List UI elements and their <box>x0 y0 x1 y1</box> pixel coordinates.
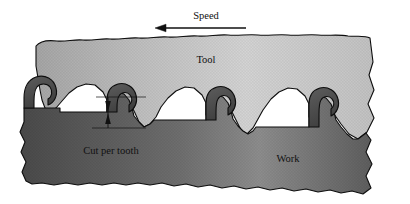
milling-diagram: Speed Tool Work Cut per tooth <box>0 0 410 204</box>
speed-arrow <box>155 24 246 32</box>
cut-per-tooth-label: Cut per tooth <box>83 145 139 156</box>
figure-canvas: Speed Tool Work Cut per tooth <box>0 0 410 204</box>
work-label: Work <box>276 153 300 164</box>
speed-label: Speed <box>193 10 219 21</box>
tool-label: Tool <box>196 54 215 65</box>
speed-arrow-head <box>155 24 166 32</box>
